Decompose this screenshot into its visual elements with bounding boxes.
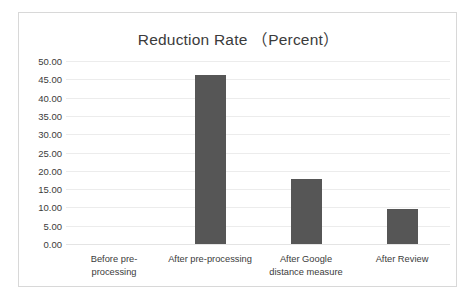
bar xyxy=(291,179,322,244)
bar-series xyxy=(66,61,450,244)
y-axis-tick-label: 30.00 xyxy=(21,129,62,140)
y-axis-tick-label: 45.00 xyxy=(21,74,62,85)
y-axis-tick-label: 25.00 xyxy=(21,147,62,158)
y-axis-tick-label: 0.00 xyxy=(21,239,62,250)
y-axis-tick-label: 40.00 xyxy=(21,92,62,103)
x-axis-label-line: distance measure xyxy=(258,266,354,279)
x-axis-label-line: After Google xyxy=(258,253,354,266)
x-axis-label-line: Before pre- xyxy=(66,253,162,266)
x-axis-label-line: After pre-processing xyxy=(162,253,258,266)
gridline xyxy=(66,244,450,245)
chart-frame: Reduction Rate （Percent） 50.0045.0040.00… xyxy=(18,12,457,287)
y-axis-tick-label: 15.00 xyxy=(21,184,62,195)
y-axis: 50.0045.0040.0035.0030.0025.0020.0015.00… xyxy=(21,61,62,249)
x-axis: Before pre-processingAfter pre-processin… xyxy=(66,249,450,287)
y-axis-tick-label: 10.00 xyxy=(21,202,62,213)
y-axis-tick-label: 50.00 xyxy=(21,56,62,67)
bar xyxy=(387,209,418,244)
x-axis-category-label: After Googledistance measure xyxy=(258,249,354,287)
bar xyxy=(195,75,226,244)
x-axis-category-label: After Review xyxy=(354,249,450,287)
y-axis-tick-label: 5.00 xyxy=(21,220,62,231)
plot-area xyxy=(66,61,450,249)
y-axis-tick-label: 20.00 xyxy=(21,165,62,176)
x-axis-category-label: After pre-processing xyxy=(162,249,258,287)
x-axis-label-line: After Review xyxy=(354,253,450,266)
chart-title: Reduction Rate （Percent） xyxy=(19,27,458,49)
y-axis-tick-label: 35.00 xyxy=(21,110,62,121)
x-axis-category-label: Before pre-processing xyxy=(66,249,162,287)
x-axis-label-line: processing xyxy=(66,266,162,279)
